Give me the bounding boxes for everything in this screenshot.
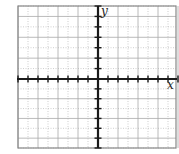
y-axis-label: y: [100, 4, 108, 18]
coordinate-plane: x y: [0, 0, 179, 154]
x-axis-label: x: [167, 78, 174, 92]
